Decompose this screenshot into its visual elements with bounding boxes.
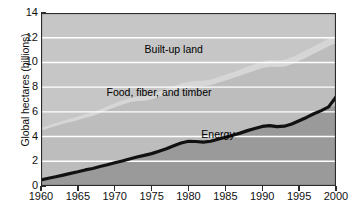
- y-tick-label: 6: [14, 106, 38, 117]
- y-tick-label: 8: [14, 81, 38, 92]
- food-fiber-timber-label: Food, fiber, and timber: [106, 86, 211, 98]
- x-tick-label: 1965: [58, 190, 98, 202]
- y-tick-label: 2: [14, 155, 38, 166]
- x-tick-mark: [335, 186, 336, 191]
- x-tick-mark: [114, 186, 115, 191]
- x-tick-mark: [77, 186, 78, 191]
- x-tick-label: 1980: [169, 190, 209, 202]
- y-axis-tick-labels: 02468101214: [14, 0, 38, 213]
- y-tick-label: 12: [14, 32, 38, 43]
- stacked-area-svg: [41, 13, 336, 186]
- x-tick-mark: [225, 186, 226, 191]
- y-tick-label: 14: [14, 7, 38, 18]
- x-tick-mark: [151, 186, 152, 191]
- x-tick-mark: [40, 186, 41, 191]
- energy-label: Energy: [201, 128, 234, 140]
- plot-area: [41, 13, 336, 186]
- x-tick-label: 1975: [132, 190, 172, 202]
- x-tick-label: 1985: [205, 190, 245, 202]
- x-tick-mark: [298, 186, 299, 191]
- y-tick-label: 4: [14, 131, 38, 142]
- x-tick-label: 1995: [279, 190, 319, 202]
- x-tick-label: 2000: [316, 190, 356, 202]
- ecological-footprint-chart: Global hectares (billions) 02468101214 1…: [0, 0, 356, 213]
- x-tick-label: 1990: [242, 190, 282, 202]
- x-tick-label: 1960: [21, 190, 61, 202]
- y-tick-label: 10: [14, 56, 38, 67]
- x-tick-mark: [262, 186, 263, 191]
- x-tick-label: 1970: [95, 190, 135, 202]
- built-up-land-label: Built-up land: [145, 43, 203, 55]
- x-tick-mark: [188, 186, 189, 191]
